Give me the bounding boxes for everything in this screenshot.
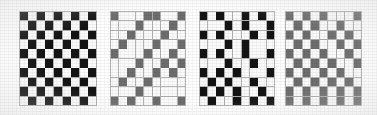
grid-cell [303, 21, 311, 30]
grid-cell [233, 59, 241, 68]
grid-cell [303, 87, 311, 96]
grid-cell [258, 21, 266, 30]
grid-cell [169, 78, 177, 87]
grid-cell [354, 49, 362, 58]
grid-cell [144, 21, 152, 30]
grid-cell [267, 87, 275, 96]
grid-cell [80, 59, 88, 68]
grid-cell [216, 78, 224, 87]
grid-cell [258, 59, 266, 68]
grid-cell [144, 78, 152, 87]
grid-cell [267, 21, 275, 30]
grid-cell [136, 21, 144, 30]
grid-cell [337, 87, 345, 96]
grid-cell [127, 68, 135, 77]
grid-cell [37, 49, 45, 58]
grid-cell [354, 31, 362, 40]
grid-cell [144, 97, 152, 106]
grid-cell [337, 59, 345, 68]
grid-cell [294, 97, 302, 106]
grid-cell [20, 59, 28, 68]
grid-cell [311, 31, 319, 40]
grid-cell [311, 97, 319, 106]
grid-cell [267, 97, 275, 106]
grid-cell [258, 97, 266, 106]
grid-cell [153, 87, 161, 96]
grid-cell [153, 78, 161, 87]
grid-cell [45, 97, 53, 106]
grid-cell [311, 87, 319, 96]
grid-cell [337, 49, 345, 58]
grid-cell [233, 40, 241, 49]
grid-cell [242, 49, 250, 58]
grid-cell [178, 31, 186, 40]
grid-cell [200, 68, 208, 77]
grid-cell [328, 59, 336, 68]
grid-cell [37, 40, 45, 49]
grid-cell [294, 78, 302, 87]
grid-cell [127, 87, 135, 96]
grid-cell [320, 97, 328, 106]
grid-cell [37, 21, 45, 30]
grid-cell [127, 78, 135, 87]
grid-cell [136, 31, 144, 40]
grid-cell [119, 31, 127, 40]
grid-cell [294, 12, 302, 21]
grid-cell [88, 12, 96, 21]
grid-cell [80, 21, 88, 30]
grid-cell [45, 21, 53, 30]
grid-cell [20, 21, 28, 30]
grid-cell [354, 21, 362, 30]
grid-cell [354, 12, 362, 21]
grid-cell [37, 68, 45, 77]
grid-cell [320, 21, 328, 30]
grid-cell [311, 12, 319, 21]
grid-cell [111, 31, 119, 40]
grid-cell [161, 78, 169, 87]
grid-cell [286, 59, 294, 68]
grid-cell [303, 59, 311, 68]
grid-cell [233, 49, 241, 58]
grid-cell [337, 40, 345, 49]
grid-cell [71, 12, 79, 21]
grid-cell [127, 31, 135, 40]
grid-cell [88, 97, 96, 106]
grid-cell [88, 68, 96, 77]
grid-cell [286, 68, 294, 77]
grid-cell [71, 49, 79, 58]
grid-cell [208, 87, 216, 96]
grid-cell [20, 31, 28, 40]
grid-pattern-figure [0, 0, 377, 115]
grid-cell [250, 12, 258, 21]
grid-cell [169, 87, 177, 96]
grid-cell [54, 31, 62, 40]
grid-cell [63, 78, 71, 87]
grid-cell [80, 12, 88, 21]
grid-cell [28, 78, 36, 87]
grid-cell [28, 49, 36, 58]
grid-cell [161, 59, 169, 68]
grid-cell [127, 12, 135, 21]
grid-cell [242, 87, 250, 96]
grid-cell [354, 40, 362, 49]
grid-cell [225, 68, 233, 77]
grid-cell [136, 97, 144, 106]
grid-cell [267, 12, 275, 21]
grid-cell [216, 12, 224, 21]
grid-cell [320, 68, 328, 77]
grid-cell [200, 87, 208, 96]
grid-cell [286, 21, 294, 30]
grid-cell [28, 87, 36, 96]
grid-cell [208, 78, 216, 87]
grid-cell [250, 21, 258, 30]
grid-cell [208, 12, 216, 21]
grid-cell [311, 59, 319, 68]
grid-cell [63, 68, 71, 77]
grid-cell [161, 68, 169, 77]
grid-cell [328, 68, 336, 77]
grid-cell [28, 21, 36, 30]
grid-cell [267, 31, 275, 40]
grid-cell [119, 68, 127, 77]
grid-cell [303, 40, 311, 49]
grid-cell [328, 49, 336, 58]
